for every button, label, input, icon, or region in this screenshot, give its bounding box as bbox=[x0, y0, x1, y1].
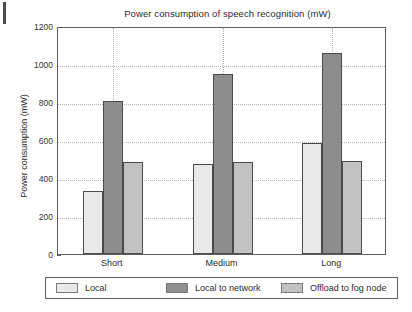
legend-label: Offload to fog node bbox=[310, 283, 386, 293]
figure-container: Power consumption of speech recognition … bbox=[0, 0, 412, 312]
chart-legend: LocalLocal to networkOffload to fog node bbox=[45, 277, 398, 299]
legend-item[interactable]: Local to network bbox=[166, 278, 261, 298]
legend-swatch-offload-to-fog-node bbox=[281, 283, 303, 293]
y-axis-tick-labels: 020040060080010001200 bbox=[15, 27, 53, 255]
y-axis-tick-label: 1000 bbox=[19, 60, 53, 70]
plot-area bbox=[57, 27, 386, 255]
bar bbox=[83, 191, 103, 254]
legend-item[interactable]: Offload to fog node bbox=[281, 278, 386, 298]
y-axis-tick-label: 800 bbox=[19, 98, 53, 108]
bar bbox=[302, 143, 322, 254]
y-axis-tick-mark bbox=[57, 255, 61, 256]
bar bbox=[342, 161, 362, 254]
legend-item[interactable]: Local bbox=[56, 278, 107, 298]
bar bbox=[213, 74, 233, 255]
y-axis-tick-label: 200 bbox=[19, 212, 53, 222]
legend-label: Local to network bbox=[195, 283, 261, 293]
x-axis-tick-label: Medium bbox=[205, 258, 237, 268]
y-axis-tick-label: 600 bbox=[19, 136, 53, 146]
y-axis-tick-label: 0 bbox=[19, 250, 53, 260]
y-axis-tick-label: 400 bbox=[19, 174, 53, 184]
bar bbox=[322, 53, 342, 254]
legend-label: Local bbox=[85, 283, 107, 293]
y-axis-tick-label: 1200 bbox=[19, 22, 53, 32]
bar bbox=[233, 162, 253, 254]
x-axis-tick-label: Short bbox=[101, 258, 123, 268]
page-edge-artifact bbox=[3, 2, 6, 24]
bar bbox=[103, 101, 123, 254]
bar bbox=[123, 162, 143, 254]
chart-title: Power consumption of speech recognition … bbox=[55, 8, 400, 19]
legend-swatch-local-to-network bbox=[166, 283, 188, 293]
x-axis-tick-label: Long bbox=[321, 258, 341, 268]
legend-swatch-local bbox=[56, 283, 78, 293]
bar bbox=[193, 164, 213, 254]
